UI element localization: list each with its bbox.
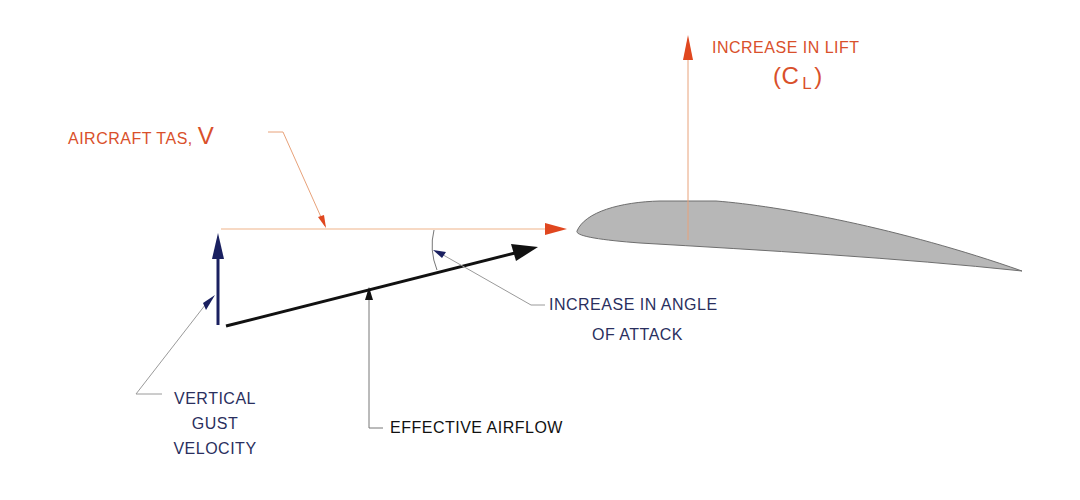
tas-arrowhead-icon (545, 223, 567, 235)
aircraft-tas-text: AIRCRAFT TAS, (68, 130, 198, 147)
effective-airflow-text: EFFECTIVE AIRFLOW (390, 419, 563, 436)
lift-label: INCREASE IN LIFT (712, 39, 860, 57)
lift-coefficient-c: C (782, 62, 800, 89)
tas-leader-line (268, 132, 325, 226)
aoa-label-line1: INCREASE IN ANGLE (549, 296, 718, 314)
aircraft-tas-symbol: V (198, 122, 215, 149)
gust-arrowhead-icon (212, 233, 224, 259)
aoa-label-text1: INCREASE IN ANGLE (549, 296, 718, 313)
lift-arrowhead-icon (683, 35, 693, 60)
airfoil-shape (577, 201, 1022, 271)
effective-airflow-line (226, 253, 515, 326)
aoa-leader-arrowhead-icon (433, 250, 446, 258)
lift-coefficient-label: (CL) (773, 62, 823, 94)
gust-leader-arrowhead-icon (203, 295, 215, 310)
lift-label-text: INCREASE IN LIFT (712, 39, 860, 56)
lift-coefficient-subscript: L (802, 74, 812, 93)
effective-airflow-arrowhead-icon (511, 244, 538, 261)
lift-paren-open: ( (773, 62, 782, 89)
gust-label-line3: VELOCITY (162, 436, 268, 461)
aoa-label-line2: OF ATTACK (592, 326, 683, 344)
gust-label: VERTICAL GUST VELOCITY (162, 386, 268, 461)
gust-label-line2: GUST (162, 411, 268, 436)
lift-paren-close: ) (814, 62, 823, 89)
tas-leader-arrowhead-icon (318, 215, 326, 228)
aoa-label-text2: OF ATTACK (592, 326, 683, 343)
gust-leader-line (136, 300, 209, 394)
gust-label-line1: VERTICAL (162, 386, 268, 411)
effective-airflow-leader-line (369, 300, 383, 428)
angle-of-attack-arc (432, 230, 437, 270)
effective-airflow-label: EFFECTIVE AIRFLOW (390, 419, 563, 437)
aircraft-tas-label: AIRCRAFT TAS, V (68, 122, 214, 150)
